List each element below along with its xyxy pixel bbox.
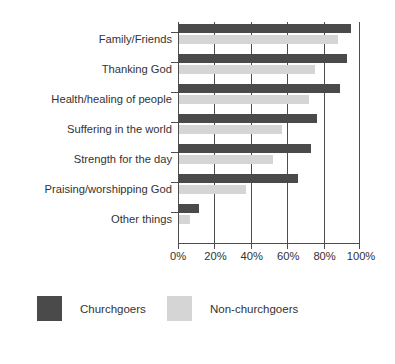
category-tick-3 [171,122,179,123]
x-tick-label-0: 0% [170,250,186,263]
category-tick-1 [171,62,179,63]
bar-churchgoers-strength-for-the-day [179,144,311,153]
x-tick-100 [359,244,360,249]
x-tick-40 [251,244,252,249]
category-tick-2 [171,92,179,93]
x-tick-label-80: 80% [313,250,335,263]
legend-swatch-nonchurchgoers [167,296,192,321]
bar-chart-figure: Family/Friends Thanking God Health/heali… [0,0,395,364]
x-axis-line [178,243,360,244]
legend-item-churchgoers: Churchgoers [37,296,146,321]
bar-churchgoers-thanking-god [179,54,347,63]
bar-churchgoers-health-healing-of-people [179,84,340,93]
bar-nonchurchgoers-strength-for-the-day [179,155,273,164]
legend-swatch-churchgoers [37,296,62,321]
category-label-health-healing-of-people: Health/healing of people [4,93,172,105]
x-tick-0 [178,244,179,249]
legend-label-churchgoers: Churchgoers [80,302,146,316]
x-tick-80 [324,244,325,249]
bar-nonchurchgoers-thanking-god [179,65,315,74]
x-axis-tick-labels: 0% 20% 40% 60% 80% 100% [178,250,368,266]
category-tick-4 [171,152,179,153]
gridline-100 [359,22,360,244]
category-tick-0 [171,32,179,33]
bar-churchgoers-suffering-in-the-world [179,114,317,123]
category-axis-labels: Family/Friends Thanking God Health/heali… [2,22,172,244]
plot-area [178,22,360,244]
bar-nonchurchgoers-praising-worshipping-god [179,185,246,194]
category-label-suffering-in-the-world: Suffering in the world [4,123,172,135]
category-tick-5 [171,182,179,183]
bar-nonchurchgoers-other-things [179,215,190,224]
bar-churchgoers-other-things [179,204,199,213]
bar-nonchurchgoers-health-healing-of-people [179,95,309,104]
category-label-praising-worshipping-god: Praising/worshipping God [4,183,172,195]
category-label-other-things: Other things [4,213,172,225]
category-label-strength-for-the-day: Strength for the day [4,153,172,165]
x-tick-label-100: 100% [347,250,376,263]
bar-nonchurchgoers-suffering-in-the-world [179,125,282,134]
chart-legend: Churchgoers Non-churchgoers [0,296,395,330]
x-tick-label-60: 60% [277,250,299,263]
x-tick-20 [214,244,215,249]
bar-nonchurchgoers-family-friends [179,35,338,44]
x-tick-60 [287,244,288,249]
category-label-thanking-god: Thanking God [4,63,172,75]
bar-churchgoers-family-friends [179,24,351,33]
legend-item-nonchurchgoers: Non-churchgoers [167,296,298,321]
category-label-family-friends: Family/Friends [4,33,172,45]
x-tick-label-40: 40% [241,250,263,263]
category-tick-6 [171,212,179,213]
bar-churchgoers-praising-worshipping-god [179,174,298,183]
x-tick-label-20: 20% [204,250,226,263]
legend-label-nonchurchgoers: Non-churchgoers [210,302,298,316]
